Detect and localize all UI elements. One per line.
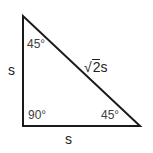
side-label-horizontal: s — [65, 133, 72, 146]
side-label-vertical: s — [8, 64, 15, 77]
hypotenuse-variable: s — [100, 59, 107, 75]
angle-label-right-angle: 90° — [28, 109, 46, 122]
angle-label-bottom-right: 45° — [101, 109, 119, 122]
angle-label-top: 45° — [27, 38, 45, 51]
radical-sign: √ — [84, 59, 92, 75]
hypotenuse-label: √2s — [84, 59, 107, 74]
triangle-figure — [0, 0, 153, 153]
